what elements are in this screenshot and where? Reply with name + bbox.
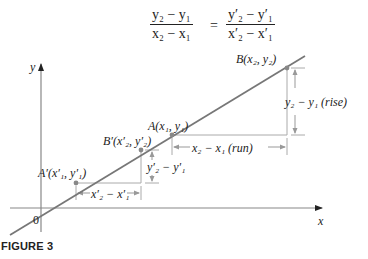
point-b (285, 66, 290, 71)
large-rise-label: y₂ − y₁ (rise) (285, 95, 347, 109)
x-axis-label: x (318, 214, 323, 228)
label-a-prime: A′(x′₁, y′₁) (38, 166, 86, 180)
small-rise-label: y′₂ − y′₁ (147, 160, 185, 174)
point-b-prime (139, 148, 144, 153)
label-b: B(x₂, y₂) (236, 52, 276, 66)
point-a-prime (74, 181, 79, 186)
figure-caption: FIGURE 3 (1, 240, 53, 252)
point-a (170, 133, 175, 138)
large-run-label: x₂ − x₁ (run) (192, 141, 253, 155)
origin-label: 0 (33, 213, 39, 227)
label-a: A(x₁, y₁) (148, 119, 188, 133)
y-axis-label: y (30, 60, 35, 74)
label-b-prime: B′(x′₂, y′₂) (103, 134, 151, 148)
small-run-label: x′₂ − x′₁ (91, 187, 129, 201)
